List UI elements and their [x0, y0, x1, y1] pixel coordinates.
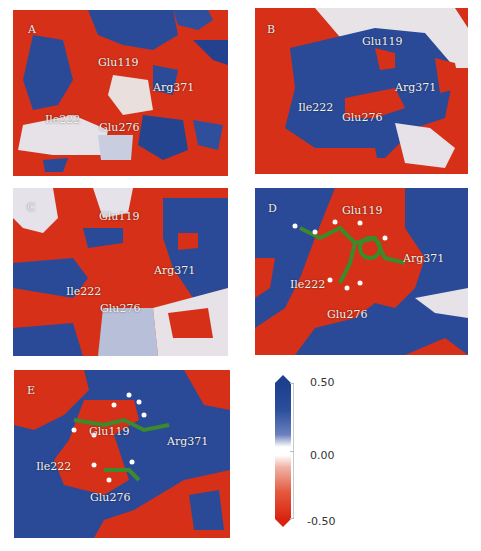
colorbar-max-label: 0.50 — [310, 377, 335, 388]
residue-label-ile222: Ile222 — [290, 279, 325, 290]
residue-label-glu276: Glu276 — [90, 492, 130, 503]
colorbar-tick — [290, 383, 294, 384]
residue-label-glu119: Glu119 — [89, 426, 129, 437]
colorbar-max-arrow — [275, 375, 291, 383]
residue-label-arg371: Arg371 — [154, 265, 195, 276]
panel-letter: E — [27, 385, 35, 396]
panel-letter: B — [267, 24, 275, 35]
surface-map-a — [13, 10, 228, 176]
residue-label-glu276: Glu276 — [99, 122, 139, 133]
colorbar-min-arrow — [275, 519, 291, 527]
panel-c: C Glu119 Arg371 Ile222 Glu276 — [13, 188, 228, 356]
residue-label-arg371: Arg371 — [395, 82, 436, 93]
colorbar-min-label: -0.50 — [307, 516, 335, 527]
residue-label-arg371: Arg371 — [167, 436, 208, 447]
panel-letter: D — [268, 203, 277, 214]
surface-map-e — [14, 370, 230, 538]
residue-label-arg371: Arg371 — [403, 253, 444, 264]
residue-label-ile222: Ile222 — [36, 461, 71, 472]
residue-label-ile222: Ile222 — [66, 286, 101, 297]
residue-label-glu276: Glu276 — [100, 303, 140, 314]
residue-label-glu119: Glu119 — [99, 211, 139, 222]
residue-label-arg371: Arg371 — [153, 82, 194, 93]
panel-d: D Glu119 Arg371 Ile222 Glu276 — [255, 188, 468, 355]
panel-a: A Glu119 Arg371 Ile222 Glu276 — [13, 10, 228, 176]
residue-label-glu276: Glu276 — [342, 112, 382, 123]
colorbar-gradient — [275, 383, 291, 519]
panel-b: B Glu119 Arg371 Ile222 Glu276 — [255, 8, 468, 174]
panel-letter: C — [27, 202, 35, 213]
residue-label-ile222: Ile222 — [298, 102, 333, 113]
residue-label-glu276: Glu276 — [327, 309, 367, 320]
panel-letter: A — [28, 24, 36, 35]
colorbar-tick — [290, 518, 294, 519]
residue-label-glu119: Glu119 — [98, 57, 138, 68]
panel-e: E Glu119 Arg371 Ile222 Glu276 — [14, 370, 230, 538]
residue-label-glu119: Glu119 — [342, 205, 382, 216]
residue-label-ile222: Ile222 — [45, 114, 80, 125]
colorbar-tick — [290, 451, 294, 452]
colorbar-mid-label: 0.00 — [310, 450, 335, 461]
residue-label-glu119: Glu119 — [362, 36, 402, 47]
